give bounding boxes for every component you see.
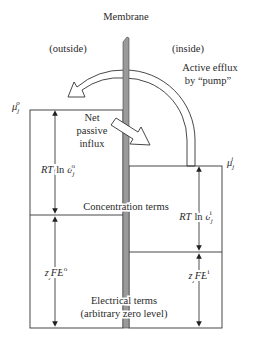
outside-concentration-term: RTlnajo (40, 162, 76, 178)
membrane-potential-diagram: Membrane (outside) (inside) Active efflu… (0, 0, 253, 346)
active-efflux-label-2: by “pump” (185, 75, 232, 86)
concentration-terms-label: Concentration terms (83, 201, 168, 212)
active-efflux-label-1: Active efflux (182, 62, 238, 73)
inside-concentration-term: RTlnaji (178, 209, 213, 225)
passive-influx-arrow (111, 118, 150, 145)
membrane-title: Membrane (103, 11, 149, 22)
passive-label-2: passive (77, 125, 108, 136)
passive-label-3: influx (79, 138, 105, 149)
outside-mu-label: μjo (11, 99, 20, 115)
inside-electrical-term: zjFEi (188, 268, 210, 284)
membrane-bar (123, 37, 129, 328)
inside-mu-label: μji (226, 155, 234, 171)
outside-label: (outside) (49, 43, 87, 55)
passive-label-1: Net (84, 112, 99, 123)
electrical-terms-label-1: Electrical terms (91, 295, 157, 306)
electrical-terms-label-2: (arbitrary zero level) (81, 308, 168, 320)
outside-electrical-term: zjFEo (44, 265, 68, 281)
inside-label: (inside) (172, 43, 205, 55)
